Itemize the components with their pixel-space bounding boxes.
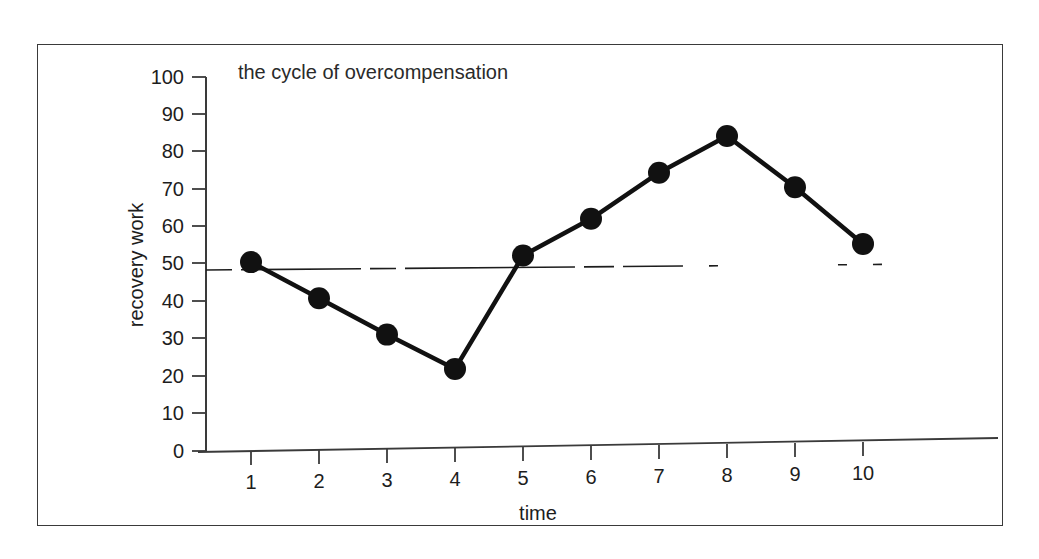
- y-tick-label: 70: [162, 178, 184, 200]
- data-point: [784, 176, 806, 198]
- y-tick-label: 90: [162, 103, 184, 125]
- x-tick-label: 7: [653, 465, 664, 487]
- data-line: [251, 136, 863, 369]
- figure-frame: the cycle of overcompensation: [37, 44, 1003, 526]
- x-axis-tick-labels: 1 2 3 4 5 6 7 8 9 10: [245, 462, 874, 493]
- data-point: [852, 233, 874, 255]
- data-point: [648, 162, 670, 184]
- x-tick-label: 10: [852, 462, 874, 484]
- data-point: [444, 358, 466, 380]
- y-axis-ticks: [192, 77, 206, 451]
- x-tick-label: 1: [245, 471, 256, 493]
- x-axis-line: [198, 438, 998, 452]
- y-tick-label: 20: [162, 365, 184, 387]
- data-point: [580, 208, 602, 230]
- y-axis-tick-labels: 100 90 80 70 60 50 40 30 20 10 0: [151, 66, 184, 462]
- figure-page: the cycle of overcompensation: [0, 0, 1039, 559]
- y-tick-label: 60: [162, 215, 184, 237]
- chart-title: the cycle of overcompensation: [238, 61, 508, 83]
- data-point: [716, 125, 738, 147]
- x-tick-label: 4: [449, 468, 460, 490]
- baseline-annotation: [206, 264, 933, 270]
- y-tick-label: 30: [162, 327, 184, 349]
- data-point: [512, 245, 534, 267]
- x-tick-label: 2: [313, 470, 324, 492]
- data-point: [240, 251, 262, 273]
- y-tick-label: 10: [162, 402, 184, 424]
- data-markers: [240, 125, 874, 380]
- x-tick-label: 6: [585, 466, 596, 488]
- x-tick-label: 3: [381, 469, 392, 491]
- data-point: [376, 324, 398, 346]
- x-tick-label: 8: [721, 464, 732, 486]
- y-tick-label: 40: [162, 290, 184, 312]
- y-tick-label: 0: [173, 440, 184, 462]
- y-tick-label: 50: [162, 252, 184, 274]
- x-tick-label: 5: [517, 467, 528, 489]
- x-axis-title: time: [519, 502, 557, 524]
- data-point: [308, 287, 330, 309]
- y-axis-title: recovery work: [125, 202, 147, 327]
- x-tick-label: 9: [789, 463, 800, 485]
- line-chart: the cycle of overcompensation: [38, 45, 1004, 527]
- y-tick-label: 100: [151, 66, 184, 88]
- y-tick-label: 80: [162, 140, 184, 162]
